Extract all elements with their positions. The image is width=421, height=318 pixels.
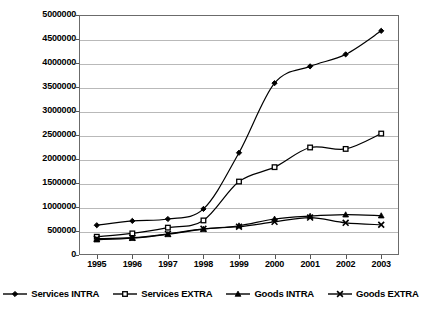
y-axis-tick-label: 2000000 — [4, 154, 76, 163]
x-axis-tick-label: 1996 — [112, 259, 152, 269]
y-axis-tick-label: 2500000 — [4, 130, 76, 139]
legend-marker-diamond-icon — [2, 288, 28, 300]
legend-label: Goods INTRA — [254, 289, 314, 299]
legend-label: Goods EXTRA — [356, 289, 419, 299]
legend-item-0[interactable]: Services INTRA — [2, 288, 99, 300]
data-point-square — [166, 225, 171, 230]
data-point-diamond — [130, 218, 135, 223]
y-axis-tick-label: 1000000 — [4, 202, 76, 211]
x-axis-tick-label: 1998 — [183, 259, 223, 269]
data-point-square — [201, 218, 206, 223]
x-axis-tick-mark — [346, 255, 347, 259]
x-axis-tick-mark — [132, 255, 133, 259]
data-point-diamond — [13, 291, 18, 296]
x-axis-tick-label: 2000 — [255, 259, 295, 269]
y-axis-tick-label: 4500000 — [4, 34, 76, 43]
y-axis-tick-label: 1500000 — [4, 178, 76, 187]
x-axis-tick-label: 1999 — [219, 259, 259, 269]
y-axis: 0500000100000015000002000000250000030000… — [0, 0, 76, 318]
x-axis-tick-label: 2003 — [361, 259, 401, 269]
x-axis-tick-mark — [168, 255, 169, 259]
series-layer — [79, 15, 399, 255]
x-axis-tick-mark — [275, 255, 276, 259]
y-axis-tick-label: 3000000 — [4, 106, 76, 115]
data-point-square — [237, 179, 242, 184]
series-line-0 — [97, 31, 381, 225]
x-axis-tick-mark — [203, 255, 204, 259]
legend-item-1[interactable]: Services EXTRA — [112, 288, 212, 300]
y-axis-tick-label: 5000000 — [4, 10, 76, 19]
data-point-square — [343, 147, 348, 152]
x-axis-tick-label: 2001 — [290, 259, 330, 269]
line-chart: 0500000100000015000002000000250000030000… — [0, 0, 421, 318]
data-point-diamond — [343, 52, 348, 57]
data-point-diamond — [236, 150, 241, 155]
legend-marker-cross-x-icon — [327, 288, 353, 300]
data-point-square — [308, 145, 313, 150]
legend-item-2[interactable]: Goods INTRA — [225, 288, 314, 300]
legend-label: Services EXTRA — [141, 289, 212, 299]
legend-item-3[interactable]: Goods EXTRA — [327, 288, 419, 300]
legend-marker-triangle-icon — [225, 288, 251, 300]
data-point-diamond — [94, 223, 99, 228]
data-point-square — [123, 292, 128, 297]
x-axis: 199519961997199819992000200120022003 — [79, 259, 399, 275]
data-point-square — [379, 131, 384, 136]
x-axis-tick-label: 1997 — [148, 259, 188, 269]
legend-marker-square-icon — [112, 288, 138, 300]
y-axis-tick-label: 4000000 — [4, 58, 76, 67]
x-axis-tick-mark — [239, 255, 240, 259]
y-axis-tick-label: 500000 — [4, 226, 76, 235]
x-axis-tick-mark — [381, 255, 382, 259]
data-point-diamond — [165, 216, 170, 221]
x-axis-tick-mark — [310, 255, 311, 259]
y-axis-tick-label: 3500000 — [4, 82, 76, 91]
y-axis-tick-label: 0 — [4, 250, 76, 259]
x-axis-tick-label: 1995 — [77, 259, 117, 269]
x-axis-tick-mark — [97, 255, 98, 259]
y-axis-tick-mark — [74, 255, 79, 256]
data-point-square — [272, 165, 277, 170]
chart-legend: Services INTRAServices EXTRAGoods INTRAG… — [0, 284, 421, 304]
data-point-diamond — [308, 64, 313, 69]
x-axis-tick-label: 2002 — [326, 259, 366, 269]
legend-label: Services INTRA — [31, 289, 99, 299]
